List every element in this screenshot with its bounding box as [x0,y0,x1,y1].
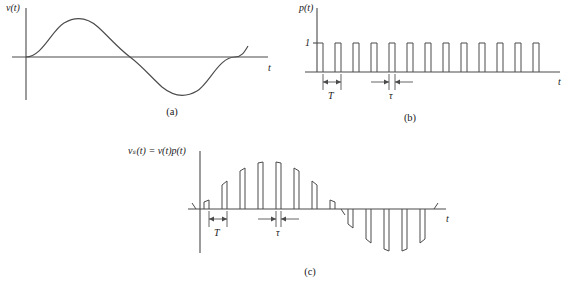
panel-a-y-axis-label: v(t) [6,2,20,13]
panel-c-pulse-12 [402,209,407,251]
panel-b-period-label: T [328,90,334,101]
panel-c-pulse-9 [348,209,353,228]
panel-c-pulse-2 [222,181,227,209]
panel-b-pulses [317,43,539,72]
panel-c-pulse-7 [312,181,317,209]
panel-b-period-dimension [323,74,341,90]
panel-c-pulse-3 [240,168,245,209]
panel-b-amplitude-tick-label: 1 [305,37,310,48]
sampling-figure: v(t) t (a) [0,0,572,287]
panel-c-plot [128,143,468,268]
panel-b-y-axis-label: p(t) [299,2,313,13]
panel-b-width-label: τ [389,90,393,101]
panel-c-width-dimension [258,211,299,227]
panel-c-pulse-4 [258,162,263,209]
panel-c-pulse-13 [420,209,425,243]
panel-b-width-dimension [371,74,413,90]
panel-c-width-label: τ [276,227,280,238]
panel-c-pulse-1 [204,200,209,209]
panel-c-pulse-5 [276,162,281,209]
panel-c-x-axis-label: t [446,213,449,224]
panel-c-pulses [204,162,425,251]
panel-c-pulse-11 [384,209,389,251]
panel-b-caption: (b) [390,112,430,123]
panel-c-pulse-10 [366,209,371,243]
panel-a-caption: (a) [152,106,192,117]
panel-a-plot [0,0,290,110]
panel-b-plot [275,0,572,110]
panel-c-period-dimension [209,211,227,227]
panel-c-caption: (c) [290,266,330,277]
panel-a-x-axis-label: t [268,62,271,73]
panel-c-pulse-8 [330,200,335,209]
panel-c-period-label: T [214,227,220,238]
panel-a-message-signal: v(t) t [0,0,290,140]
panel-c-y-axis-label: vₛ(t) = v(t)p(t) [128,145,186,156]
panel-c-pulse-6 [294,168,299,209]
panel-b-x-axis-label: t [558,76,561,87]
